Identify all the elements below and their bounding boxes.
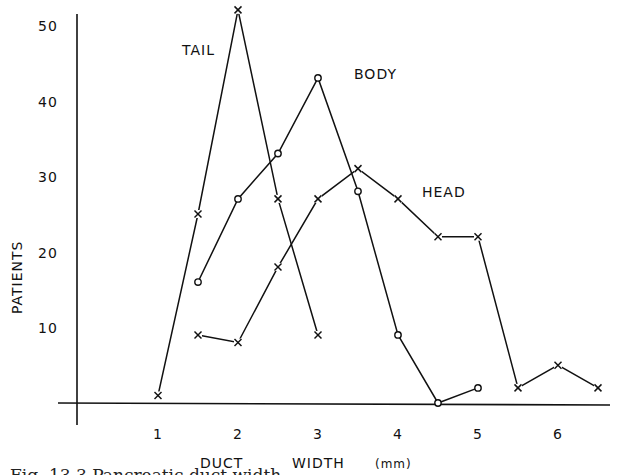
x-marker-icon — [474, 233, 482, 241]
x-marker-icon — [354, 165, 362, 173]
x-marker-icon — [194, 331, 202, 339]
series-labels: TAILBODYHEAD — [181, 42, 466, 199]
circle-marker-icon — [475, 385, 481, 391]
y-tick-label: 50 — [38, 18, 58, 34]
series-label-head: HEAD — [422, 184, 466, 200]
x-tick-label: 6 — [553, 426, 563, 442]
x-tick-label: 5 — [473, 426, 483, 442]
figure-caption: Fig. 13.3 Pancreatic duct width — [10, 464, 281, 475]
x-tick-label: 3 — [313, 426, 323, 442]
x-marker-icon — [314, 331, 322, 339]
circle-marker-icon — [275, 150, 281, 156]
circle-marker-icon — [195, 279, 201, 285]
x-marker-icon — [394, 195, 402, 203]
circle-marker-icon — [235, 196, 241, 202]
x-axis-label-width: WIDTH — [292, 455, 345, 471]
x-marker-icon — [194, 210, 202, 218]
y-tick-label: 10 — [38, 320, 58, 336]
circle-marker-icon — [355, 188, 361, 194]
y-tick-label: 20 — [38, 245, 58, 261]
line-chart: 1234561020304050 TAILBODYHEAD PATIENTS D… — [0, 0, 617, 475]
circle-marker-icon — [315, 75, 321, 81]
x-axis-label-unit: (mm) — [375, 457, 412, 471]
y-axis-label: PATIENTS — [9, 241, 25, 314]
x-tick-label: 2 — [233, 426, 243, 442]
x-marker-icon — [274, 195, 282, 203]
series-label-tail: TAIL — [181, 42, 215, 58]
x-marker-icon — [314, 195, 322, 203]
x-marker-icon — [434, 233, 442, 241]
y-tick-label: 40 — [38, 94, 58, 110]
x-marker-icon — [594, 384, 602, 392]
x-marker-icon — [554, 361, 562, 369]
x-marker-icon — [234, 339, 242, 347]
circle-marker-icon — [395, 332, 401, 338]
y-tick-label: 30 — [38, 169, 58, 185]
x-axis-line — [58, 403, 610, 405]
x-marker-icon — [154, 391, 162, 399]
x-marker-icon — [234, 6, 242, 14]
x-tick-label: 1 — [153, 426, 163, 442]
series-head — [194, 165, 602, 392]
x-marker-icon — [274, 263, 282, 271]
axes — [58, 14, 610, 425]
circle-marker-icon — [435, 400, 441, 406]
x-tick-label: 4 — [393, 426, 403, 442]
x-marker-icon — [514, 384, 522, 392]
series-label-body: BODY — [354, 66, 397, 82]
